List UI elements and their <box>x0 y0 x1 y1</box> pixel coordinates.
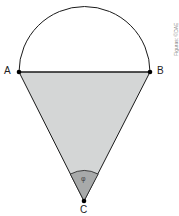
point-a-label: A <box>4 66 11 76</box>
point-b-dot <box>148 70 153 75</box>
semicircle-arc <box>19 7 150 72</box>
point-a-dot <box>17 70 22 75</box>
point-c-dot <box>82 199 87 204</box>
angle-phi-label: φ <box>81 174 86 184</box>
point-b-label: B <box>157 66 164 76</box>
figure-credit: Figuras: ©DAE <box>173 23 179 56</box>
diagram-canvas <box>0 0 179 216</box>
point-c-label: C <box>80 205 87 215</box>
